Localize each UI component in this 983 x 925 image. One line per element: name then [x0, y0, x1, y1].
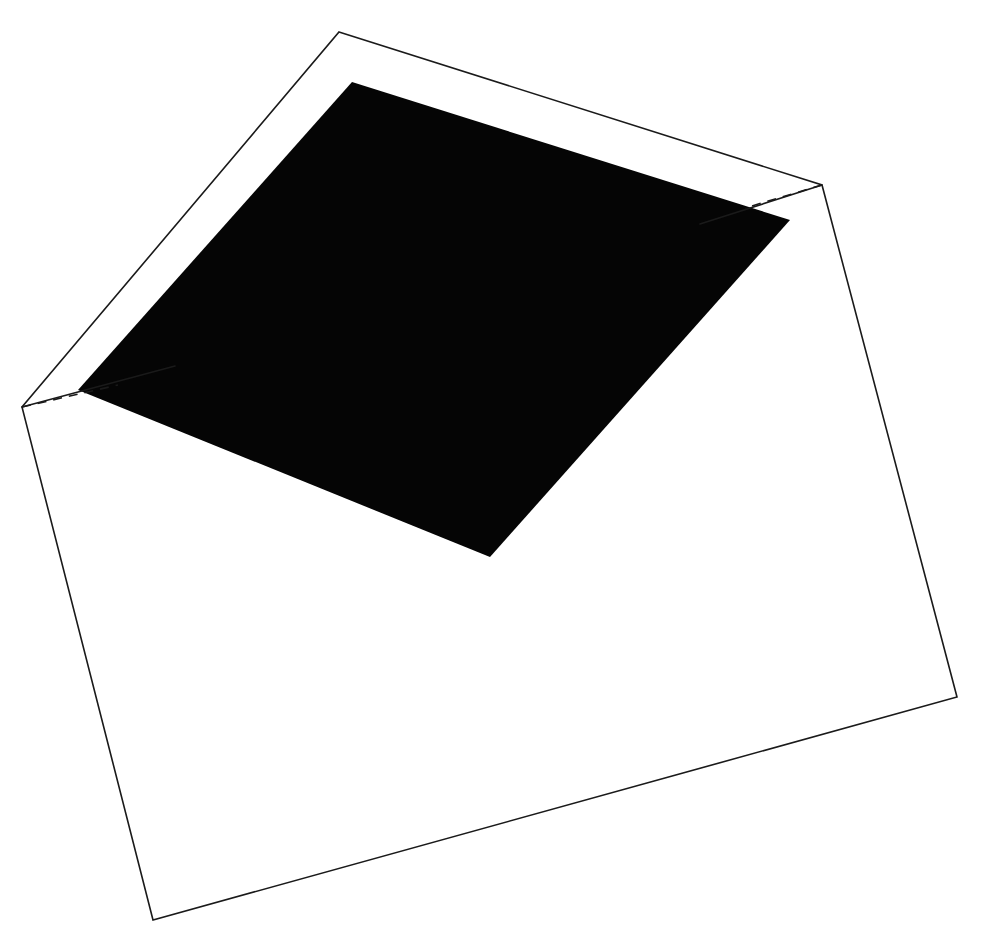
envelope-line-drawing [0, 0, 983, 925]
figure-canvas [0, 0, 983, 925]
